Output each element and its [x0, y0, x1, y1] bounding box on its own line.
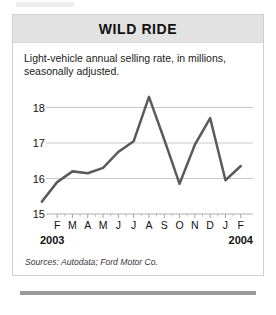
x-axis-tick-label: N [191, 219, 199, 231]
x-axis-tick-label: J [223, 219, 228, 231]
source-note: Sources: Autodata; Ford Motor Co. [13, 250, 263, 275]
plot-area: 15161718 [24, 86, 253, 218]
x-axis-ticks [43, 214, 253, 218]
page-title: WILD RIDE [99, 21, 178, 37]
line-chart-svg [24, 86, 253, 218]
year-label-start: 2003 [40, 234, 64, 246]
chart-panel: Light-vehicle annual selling rate, in mi… [12, 42, 264, 276]
plot-canvas [24, 86, 253, 218]
x-axis-tick-label: S [161, 219, 168, 231]
top-artifact [16, 2, 74, 7]
bottom-divider [20, 291, 256, 295]
x-axis-tick-label: O [175, 219, 183, 231]
x-axis-tick-label: J [116, 219, 121, 231]
chart-title-band: WILD RIDE [12, 14, 264, 42]
x-axis-tick-label: F [54, 219, 60, 231]
year-labels: 2003 2004 [24, 234, 253, 250]
chart-figure: WILD RIDE Light-vehicle annual selling r… [12, 14, 264, 276]
x-axis-tick-label: M [68, 219, 77, 231]
data-series-line [42, 97, 241, 202]
x-axis-tick-label: D [206, 219, 214, 231]
x-axis-tick-label: F [238, 219, 244, 231]
chart-subtitle: Light-vehicle annual selling rate, in mi… [13, 43, 263, 86]
x-axis-tick-label: A [145, 219, 152, 231]
x-axis-tick-label: M [99, 219, 108, 231]
x-axis-tick-label: J [131, 219, 136, 231]
x-axis-tick-label: A [84, 219, 91, 231]
x-axis-labels: FMAMJJASONDJF [24, 219, 253, 234]
year-label-end: 2004 [229, 234, 253, 246]
